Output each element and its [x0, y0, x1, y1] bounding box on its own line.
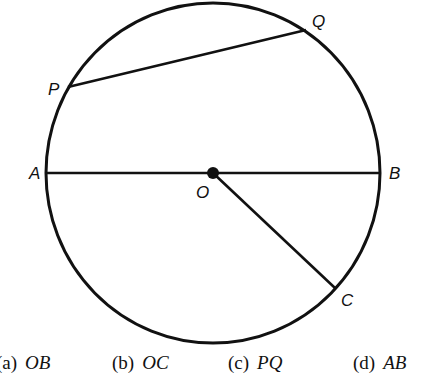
- center-point-O: [207, 167, 219, 179]
- option-c-label: (c): [228, 352, 249, 373]
- label-C: C: [341, 291, 354, 310]
- label-P: P: [48, 80, 60, 99]
- option-c[interactable]: (c)PQ: [228, 352, 282, 374]
- answer-options: (a)OB (b)OC (c)PQ (d)AB: [0, 352, 422, 375]
- label-O: O: [196, 183, 209, 202]
- option-c-value: PQ: [257, 352, 282, 373]
- option-a-label: (a): [0, 352, 17, 373]
- option-a-value: OB: [25, 352, 50, 373]
- option-d-label: (d): [353, 352, 375, 373]
- chord-PQ: [68, 30, 306, 87]
- radius-OC: [213, 173, 335, 288]
- option-b-label: (b): [112, 352, 134, 373]
- circle-diagram: A B P Q C O: [0, 0, 422, 375]
- label-B: B: [389, 164, 400, 183]
- option-d[interactable]: (d)AB: [353, 352, 406, 374]
- label-Q: Q: [312, 12, 325, 31]
- option-b[interactable]: (b)OC: [112, 352, 169, 374]
- option-d-value: AB: [383, 352, 406, 373]
- option-a[interactable]: (a)OB: [0, 352, 50, 374]
- label-A: A: [28, 164, 40, 183]
- option-b-value: OC: [142, 352, 168, 373]
